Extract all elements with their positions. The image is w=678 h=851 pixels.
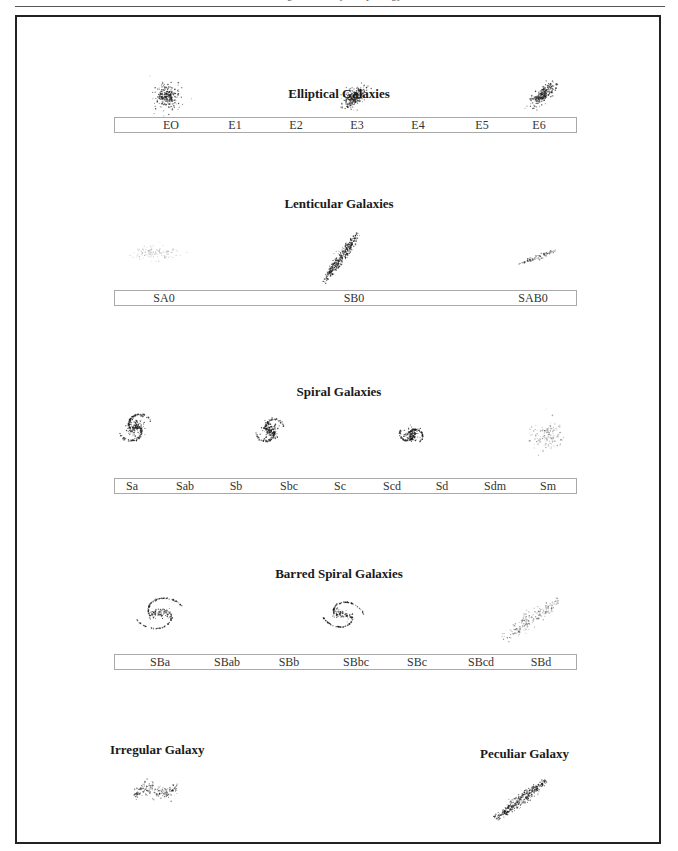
galaxy-star-dot bbox=[562, 437, 564, 439]
galaxy-star-dot bbox=[137, 414, 139, 416]
galaxy-star-dot bbox=[357, 235, 358, 236]
galaxy-star-dot bbox=[356, 237, 357, 238]
galaxy-star-dot bbox=[524, 628, 525, 629]
galaxy-star-dot bbox=[560, 443, 561, 444]
galaxy-star-dot bbox=[418, 430, 419, 431]
galaxy-star-dot bbox=[143, 787, 144, 788]
galaxy-star-dot bbox=[538, 443, 539, 444]
lenticular-label-bar: SA0 SB0 SAB0 bbox=[114, 290, 577, 306]
galaxy-scd-image bbox=[397, 423, 425, 444]
galaxy-star-dot bbox=[544, 780, 545, 781]
galaxy-star-dot bbox=[167, 253, 168, 254]
galaxy-star-dot bbox=[547, 87, 548, 88]
class-label-sbab: SBab bbox=[214, 655, 240, 670]
galaxy-star-dot bbox=[144, 783, 145, 784]
peculiar-title: Peculiar Galaxy bbox=[480, 746, 569, 762]
galaxy-star-dot bbox=[405, 433, 406, 434]
galaxy-star-dot bbox=[537, 786, 538, 787]
galaxy-star-dot bbox=[537, 103, 538, 104]
galaxy-star-dot bbox=[524, 801, 526, 803]
galaxy-star-dot bbox=[342, 252, 343, 253]
galaxy-star-dot bbox=[270, 437, 271, 438]
galaxy-star-dot bbox=[271, 436, 272, 437]
galaxy-star-dot bbox=[159, 790, 160, 791]
galaxy-star-dot bbox=[534, 793, 535, 794]
galaxy-star-dot bbox=[535, 789, 537, 791]
galaxy-star-dot bbox=[165, 790, 166, 791]
galaxy-star-dot bbox=[351, 603, 352, 604]
galaxy-peculiar-image bbox=[492, 778, 549, 822]
galaxy-star-dot bbox=[560, 439, 561, 440]
galaxy-star-dot bbox=[362, 611, 363, 612]
class-label-sb0: SB0 bbox=[344, 291, 365, 306]
galaxy-star-dot bbox=[531, 97, 532, 98]
galaxy-star-dot bbox=[531, 796, 532, 797]
galaxy-star-dot bbox=[503, 809, 504, 810]
galaxy-star-dot bbox=[347, 245, 348, 246]
galaxy-star-dot bbox=[545, 442, 546, 443]
galaxy-star-dot bbox=[552, 437, 554, 439]
galaxy-star-dot bbox=[336, 260, 338, 262]
galaxy-star-dot bbox=[364, 95, 366, 97]
galaxy-star-dot bbox=[517, 801, 518, 802]
galaxy-star-dot bbox=[358, 92, 359, 93]
galaxy-star-dot bbox=[419, 437, 420, 438]
galaxy-star-dot bbox=[518, 797, 519, 798]
galaxy-star-dot bbox=[131, 417, 132, 418]
galaxy-star-dot bbox=[523, 791, 525, 793]
galaxy-star-dot bbox=[163, 793, 164, 794]
galaxy-star-dot bbox=[158, 598, 159, 599]
galaxy-star-dot bbox=[334, 267, 335, 268]
galaxy-star-dot bbox=[172, 87, 173, 88]
galaxy-star-dot bbox=[555, 84, 557, 86]
galaxy-star-dot bbox=[550, 435, 551, 436]
galaxy-star-dot bbox=[142, 248, 143, 249]
galaxy-star-dot bbox=[135, 256, 136, 257]
galaxy-star-dot bbox=[143, 257, 144, 258]
galaxy-star-dot bbox=[332, 266, 333, 267]
galaxy-star-dot bbox=[350, 247, 351, 248]
galaxy-star-dot bbox=[152, 252, 153, 253]
galaxy-star-dot bbox=[259, 433, 260, 434]
galaxy-star-dot bbox=[519, 805, 520, 806]
galaxy-star-dot bbox=[532, 614, 533, 615]
galaxy-star-dot bbox=[546, 97, 547, 98]
galaxy-star-dot bbox=[547, 427, 548, 428]
galaxy-star-dot bbox=[162, 92, 163, 93]
galaxy-star-dot bbox=[533, 790, 535, 792]
galaxy-star-dot bbox=[341, 261, 343, 263]
class-label-sa: Sa bbox=[126, 479, 138, 494]
galaxy-star-dot bbox=[162, 251, 163, 252]
galaxy-star-dot bbox=[538, 95, 539, 96]
galaxy-star-dot bbox=[161, 609, 162, 610]
galaxy-star-dot bbox=[178, 602, 179, 603]
galaxy-sbc-image bbox=[254, 416, 286, 444]
galaxy-star-dot bbox=[168, 251, 170, 253]
galaxy-star-dot bbox=[543, 437, 545, 439]
galaxy-star-dot bbox=[164, 93, 165, 94]
galaxy-star-dot bbox=[157, 255, 158, 256]
galaxy-star-dot bbox=[497, 812, 498, 813]
galaxy-star-dot bbox=[144, 790, 145, 791]
galaxy-star-dot bbox=[127, 428, 128, 429]
galaxy-star-dot bbox=[129, 254, 130, 255]
galaxy-star-dot bbox=[540, 101, 541, 102]
galaxy-star-dot bbox=[361, 89, 362, 90]
galaxy-star-dot bbox=[499, 813, 500, 814]
galaxy-star-dot bbox=[147, 608, 148, 609]
galaxy-star-dot bbox=[558, 434, 559, 435]
galaxy-star-dot bbox=[261, 427, 262, 428]
galaxy-star-dot bbox=[538, 789, 539, 790]
galaxy-star-dot bbox=[346, 102, 347, 103]
galaxy-star-dot bbox=[551, 96, 552, 97]
galaxy-star-dot bbox=[408, 431, 409, 432]
galaxy-star-dot bbox=[278, 420, 279, 421]
galaxy-star-dot bbox=[543, 87, 544, 88]
galaxy-star-dot bbox=[325, 620, 326, 621]
galaxy-star-dot bbox=[148, 606, 149, 607]
galaxy-star-dot bbox=[171, 795, 172, 796]
galaxy-star-dot bbox=[537, 99, 538, 100]
galaxy-star-dot bbox=[329, 269, 331, 271]
galaxy-star-dot bbox=[531, 786, 532, 787]
galaxy-star-dot bbox=[165, 788, 167, 790]
